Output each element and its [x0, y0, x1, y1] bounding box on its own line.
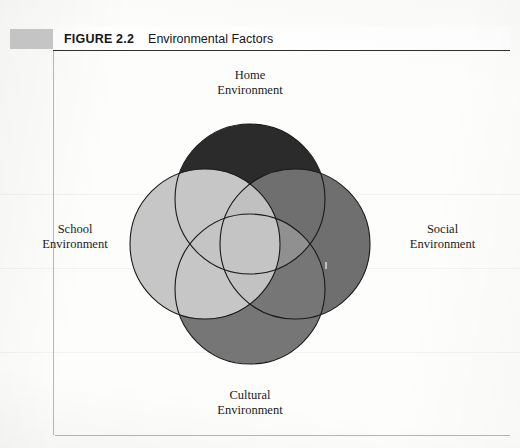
figure-page: FIGURE 2.2 Environmental Factors [0, 0, 520, 448]
label-cultural-environment: Cultural Environment [186, 388, 314, 418]
label-social-environment: Social Environment [385, 222, 500, 252]
label-home-environment: Home Environment [186, 68, 314, 98]
figure-title: Environmental Factors [148, 32, 273, 46]
figure-number: FIGURE 2.2 [64, 32, 134, 46]
figure-header: FIGURE 2.2 Environmental Factors [53, 27, 511, 50]
venn-svg [110, 104, 390, 384]
label-school-environment: School Environment [20, 222, 130, 252]
figure-tab-marker [10, 29, 53, 49]
bottom-rule [55, 435, 510, 436]
header-divider [53, 50, 510, 51]
venn-diagram [110, 104, 390, 384]
